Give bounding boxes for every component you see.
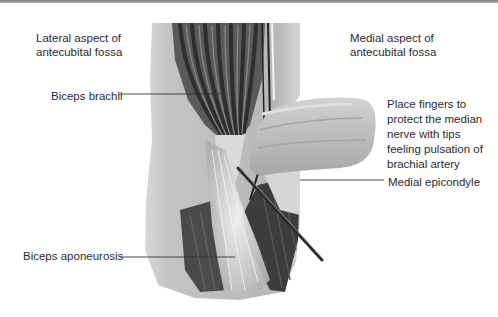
label-biceps-aponeurosis: Biceps aponeurosis bbox=[23, 249, 123, 263]
label-lateral-aspect: Lateral aspect of antecubital fossa bbox=[36, 31, 176, 59]
label-fingers-instruction: Place fingers to protect the median nerv… bbox=[387, 97, 497, 172]
label-medial-epicondyle: Medial epicondyle bbox=[388, 175, 480, 189]
label-medial-aspect: Medial aspect of antecubital fossa bbox=[350, 31, 480, 59]
label-biceps-brachii: Biceps brachii bbox=[51, 89, 123, 103]
